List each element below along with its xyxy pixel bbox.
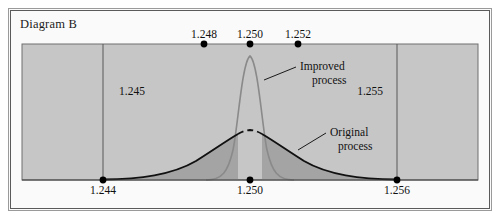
bottom-marker-1244 bbox=[100, 177, 107, 184]
bottom-tick-label-1250: 1.250 bbox=[237, 184, 263, 196]
top-tick-label-1248: 1.248 bbox=[191, 28, 217, 40]
original-callout-label-line2: process bbox=[338, 140, 373, 153]
top-marker-1252 bbox=[295, 41, 302, 48]
improved-callout-label-line2: process bbox=[312, 74, 347, 87]
original-callout-label-line1: Original bbox=[330, 126, 368, 139]
bottom-tick-label-1256: 1.256 bbox=[384, 184, 410, 196]
top-tick-label-1250: 1.250 bbox=[237, 28, 263, 40]
bottom-marker-1256 bbox=[394, 177, 401, 184]
diagram-figure: Diagram B 1.248 1.250 1.252 1.244 bbox=[0, 0, 500, 219]
top-tick-label-1252: 1.252 bbox=[285, 28, 311, 40]
bottom-marker-1250 bbox=[247, 177, 254, 184]
gridline-label-1255: 1.255 bbox=[357, 85, 383, 97]
gridline-label-1245: 1.245 bbox=[119, 85, 145, 97]
plot-area: 1.248 1.250 1.252 1.244 1.250 1.256 1.24… bbox=[0, 0, 500, 219]
top-marker-1248 bbox=[201, 41, 208, 48]
plot-panel bbox=[22, 44, 478, 180]
top-marker-1250 bbox=[247, 41, 254, 48]
improved-callout-label-line1: Improved bbox=[300, 60, 345, 73]
bottom-tick-label-1244: 1.244 bbox=[90, 184, 116, 196]
